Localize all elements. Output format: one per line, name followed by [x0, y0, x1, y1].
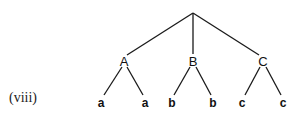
tree-diagram: A B C a a b b c c (viii) [0, 0, 293, 113]
edge-B-b1 [174, 67, 190, 95]
node-C: C [258, 54, 267, 69]
edge-root-C [193, 13, 259, 55]
leaf-b2: b [209, 96, 216, 110]
tree-nodes: A B C a a b b c c [98, 54, 287, 110]
item-label: (viii) [9, 90, 37, 106]
leaf-a2: a [142, 96, 149, 110]
leaf-b1: b [168, 96, 175, 110]
edge-C-c2 [266, 67, 281, 95]
edge-B-b2 [196, 67, 211, 95]
edge-A-a2 [127, 67, 143, 95]
leaf-c1: c [239, 96, 246, 110]
node-B: B [189, 54, 198, 69]
leaf-c2: c [280, 96, 287, 110]
tree-svg: A B C a a b b c c [0, 0, 293, 113]
edge-A-a1 [104, 67, 122, 95]
edge-root-A [127, 13, 193, 55]
edge-C-c1 [245, 67, 260, 95]
leaf-a1: a [98, 96, 105, 110]
node-A: A [120, 54, 129, 69]
